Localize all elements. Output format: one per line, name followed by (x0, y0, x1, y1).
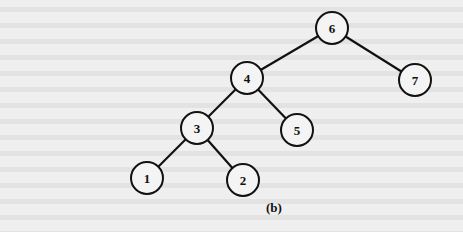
tree-node-5: 5 (281, 114, 313, 146)
tree-node-6: 6 (316, 12, 348, 44)
tree-nodes: 6473512 (131, 12, 431, 196)
tree-node-3: 3 (181, 112, 213, 144)
node-label: 1 (144, 171, 151, 186)
binary-tree-diagram: 6473512 (0, 0, 463, 232)
tree-node-2: 2 (227, 164, 259, 196)
node-label: 6 (329, 21, 336, 36)
node-label: 2 (240, 173, 247, 188)
tree-node-1: 1 (131, 162, 163, 194)
node-label: 7 (412, 73, 419, 88)
tree-node-7: 7 (399, 64, 431, 96)
node-label: 5 (294, 123, 301, 138)
figure-caption: (b) (266, 200, 282, 216)
node-label: 4 (244, 71, 251, 86)
tree-node-4: 4 (231, 62, 263, 94)
tree-edges (147, 28, 415, 180)
node-label: 3 (194, 121, 201, 136)
